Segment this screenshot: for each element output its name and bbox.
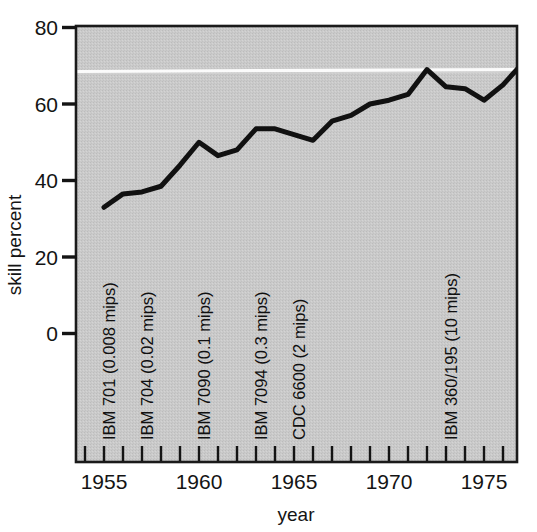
y-tick-label-40: 40 [35,169,58,192]
chart-figure: 80 60 40 20 0 skill percent [0,0,537,532]
x-tick-label-1970: 1970 [366,470,413,493]
annotation-ibm-704: IBM 704 (0.02 mips) [138,291,156,440]
annotation-ibm-7090: IBM 7090 (0.1 mips) [195,291,213,440]
line-chart: 80 60 40 20 0 skill percent [0,0,537,532]
y-tick-label-60: 60 [35,93,58,116]
y-tick-label-80: 80 [35,16,58,39]
x-axis-title: year [278,504,316,525]
y-tick-label-0: 0 [46,322,58,345]
annotation-ibm-701: IBM 701 (0.008 mips) [100,282,118,440]
annotation-cdc-6600: CDC 6600 (2 mips) [290,299,308,440]
y-axis-title: skill percent [4,194,25,295]
annotation-ibm-7094: IBM 7094 (0.3 mips) [252,291,270,440]
x-tick-label-1965: 1965 [271,470,318,493]
x-tick-label-1960: 1960 [176,470,223,493]
y-tick-label-20: 20 [35,246,58,269]
x-tick-label-1975: 1975 [461,470,508,493]
scan-artifact-line [77,70,516,72]
x-tick-label-1955: 1955 [81,470,128,493]
annotation-ibm-360-195: IBM 360/195 (10 mips) [442,273,460,440]
